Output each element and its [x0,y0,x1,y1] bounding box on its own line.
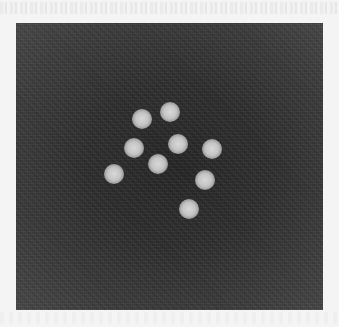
particle [202,139,222,159]
micrograph [16,23,323,310]
page-bleed-through-top [0,2,339,14]
particle [124,138,144,158]
particle [195,170,215,190]
particle [168,134,188,154]
particle [160,102,180,122]
particle [104,164,124,184]
noise-texture [16,23,323,310]
particle [179,199,199,219]
page-bleed-through-bottom [0,312,339,324]
particle [132,109,152,129]
particle [148,154,168,174]
